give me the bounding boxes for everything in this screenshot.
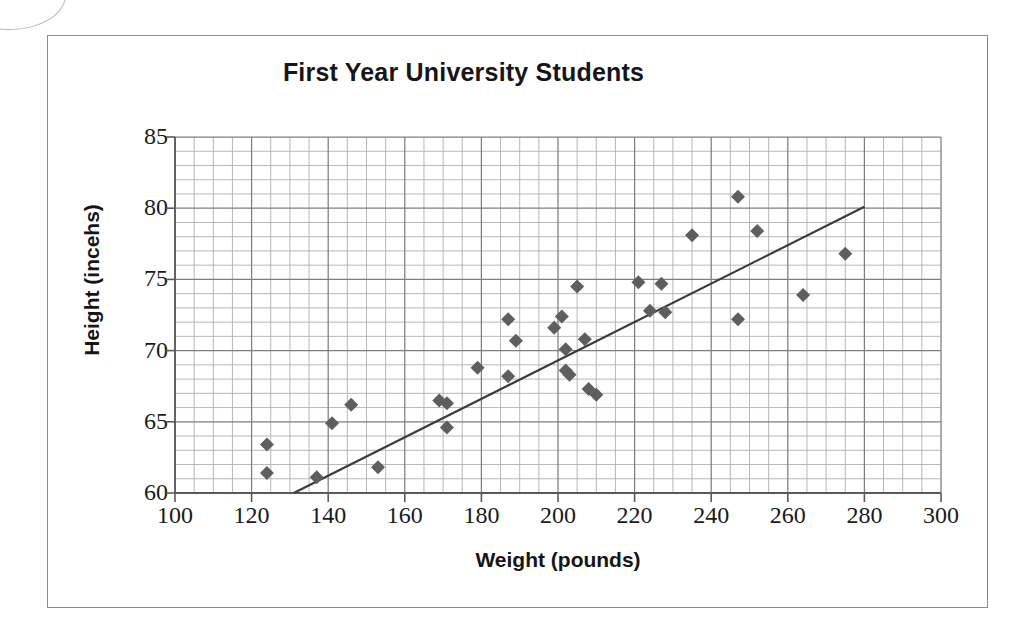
data-point	[654, 277, 668, 291]
y-tick-label: 65	[122, 408, 168, 435]
axis-tick-marks	[166, 137, 941, 502]
x-tick-label: 140	[293, 502, 363, 529]
x-tick-label: 200	[523, 502, 593, 529]
chart-title: First Year University Students	[48, 58, 987, 87]
data-point	[344, 398, 358, 412]
data-point	[501, 369, 515, 383]
x-tick-label: 260	[753, 502, 823, 529]
x-tick-label: 120	[217, 502, 287, 529]
x-tick-label: 220	[600, 502, 670, 529]
x-tick-label: 180	[446, 502, 516, 529]
x-tick-label: 100	[140, 502, 210, 529]
y-tick-label: 80	[122, 194, 168, 221]
data-point	[310, 470, 324, 484]
data-point	[509, 334, 523, 348]
data-point	[471, 361, 485, 375]
chart-frame: First Year University Students Height (i…	[47, 35, 988, 608]
data-point	[643, 304, 657, 318]
data-point	[838, 247, 852, 261]
x-tick-label: 300	[906, 502, 976, 529]
data-point	[440, 420, 454, 434]
x-tick-label: 240	[676, 502, 746, 529]
x-axis-title: Weight (pounds)	[175, 548, 941, 572]
y-axis-title: Height (incehs)	[80, 150, 104, 410]
data-points	[260, 190, 852, 485]
data-point	[631, 275, 645, 289]
data-point	[658, 305, 672, 319]
plot-area	[175, 137, 941, 493]
data-point	[555, 309, 569, 323]
data-point	[325, 416, 339, 430]
y-tick-label: 85	[122, 123, 168, 150]
y-axis-tick-labels: 606570758085	[110, 137, 168, 493]
data-point	[685, 228, 699, 242]
plot-svg	[175, 137, 941, 493]
data-point	[796, 288, 810, 302]
y-tick-label: 75	[122, 265, 168, 292]
y-tick-label: 70	[122, 337, 168, 364]
data-point	[731, 190, 745, 204]
x-axis-tick-labels: 100120140160180200220240260280300	[175, 502, 941, 536]
data-point	[547, 321, 561, 335]
data-point	[260, 466, 274, 480]
scan-artifact	[0, 0, 66, 30]
data-point	[570, 280, 584, 294]
x-tick-label: 160	[370, 502, 440, 529]
data-point	[501, 312, 515, 326]
data-point	[371, 460, 385, 474]
x-tick-label: 280	[829, 502, 899, 529]
data-point	[260, 438, 274, 452]
data-point	[731, 312, 745, 326]
data-point	[750, 224, 764, 238]
